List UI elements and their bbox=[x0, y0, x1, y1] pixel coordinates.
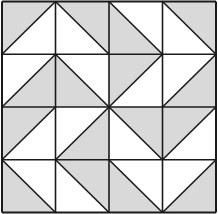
quilt-cell bbox=[109, 160, 163, 213]
quilt-cell bbox=[109, 54, 163, 107]
quilt-cell bbox=[163, 160, 217, 213]
quilt-cell bbox=[56, 2, 110, 55]
quilt-cell bbox=[163, 54, 217, 107]
quilt-cell bbox=[56, 160, 110, 213]
quilt-cell bbox=[2, 107, 56, 160]
quilt-cell bbox=[163, 107, 217, 160]
quilt-cell bbox=[163, 2, 217, 55]
quilt-diagram bbox=[0, 0, 218, 214]
quilt-cell bbox=[2, 2, 56, 55]
quilt-cell bbox=[109, 107, 163, 160]
quilt-cell bbox=[2, 160, 56, 213]
quilt-cell bbox=[56, 54, 110, 107]
quilt-cell bbox=[109, 2, 163, 55]
quilt-cell bbox=[2, 54, 56, 107]
quilt-cell bbox=[56, 107, 110, 160]
